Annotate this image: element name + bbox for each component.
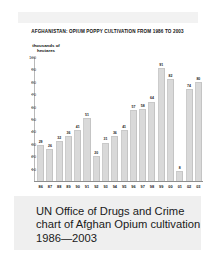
y-tick-label: 10 — [24, 166, 36, 171]
bar-slot[interactable]: 36 — [64, 57, 73, 181]
bar[interactable] — [186, 89, 193, 181]
x-tick-label: 97 — [138, 184, 147, 189]
bar-value-label: 31 — [101, 137, 110, 141]
y-tick-mark — [31, 144, 34, 145]
x-tick-label: 98 — [147, 184, 156, 189]
x-tick-label: 86 — [36, 184, 45, 189]
bar-value-label: 64 — [147, 96, 156, 100]
bar[interactable] — [74, 130, 81, 181]
x-tick-label: 87 — [45, 184, 54, 189]
y-tick-mark — [31, 169, 34, 170]
x-tick-label: 89 — [64, 184, 73, 189]
bar-value-label: 41 — [73, 125, 82, 129]
bar-value-label: 36 — [110, 131, 119, 135]
bar[interactable] — [167, 79, 174, 181]
y-tick-mark — [31, 119, 34, 120]
x-tick-label: 94 — [110, 184, 119, 189]
bar-value-label: 80 — [194, 77, 203, 81]
x-tick-label: 88 — [55, 184, 64, 189]
x-tick-label: 00 — [166, 184, 175, 189]
bar-slot[interactable]: 64 — [147, 57, 156, 181]
bar-slot[interactable]: 57 — [129, 57, 138, 181]
bar-value-label: 74 — [184, 84, 193, 88]
bar[interactable] — [102, 143, 109, 181]
x-tick-label: 02 — [184, 184, 193, 189]
bar-slot[interactable]: 31 — [101, 57, 110, 181]
y-axis-caption-line2: hectares — [16, 48, 76, 53]
y-tick-label: 90 — [24, 67, 36, 72]
x-tick-label: 92 — [92, 184, 101, 189]
bar[interactable] — [176, 171, 183, 181]
bar-slot[interactable]: 74 — [184, 57, 193, 181]
chart-title: AFGHANISTAN: OPIUM POPPY CULTIVATION FRO… — [0, 29, 215, 35]
y-tick-label: 50 — [24, 117, 36, 122]
bar-value-label: 57 — [129, 105, 138, 109]
bar-slot[interactable]: 8 — [175, 57, 184, 181]
y-tick-label: 20 — [24, 154, 36, 159]
chart-page: AFGHANISTAN: OPIUM POPPY CULTIVATION FRO… — [0, 0, 215, 262]
caption-line-1: UN Office of Drugs and Crime — [36, 205, 208, 218]
y-tick-mark — [31, 57, 34, 58]
bar[interactable] — [130, 110, 137, 181]
bar-value-label: 41 — [120, 125, 129, 129]
y-tick-mark — [31, 131, 34, 132]
bar[interactable] — [111, 136, 118, 181]
bar[interactable] — [56, 141, 63, 181]
bar-value-label: 36 — [64, 131, 73, 135]
bar-slot[interactable]: 20 — [92, 57, 101, 181]
bar-value-label: 51 — [82, 113, 91, 117]
bar-slot[interactable]: 82 — [166, 57, 175, 181]
x-tick-label: 03 — [194, 184, 203, 189]
bar-slot[interactable]: 36 — [110, 57, 119, 181]
bar-series: 29263236415120313641575864918287480 — [36, 57, 203, 181]
x-tick-label: 91 — [82, 184, 91, 189]
bar[interactable] — [83, 118, 90, 181]
bar-slot[interactable]: 41 — [73, 57, 82, 181]
top-decorative-band — [18, 12, 198, 23]
y-tick-label: 60 — [24, 104, 36, 109]
x-axis-line — [34, 181, 203, 182]
bar[interactable] — [121, 130, 128, 181]
y-tick-label: 80 — [24, 80, 36, 85]
x-tick-label: 99 — [157, 184, 166, 189]
caption-line-3: 1986—2003 — [36, 232, 208, 245]
bar-value-label: 20 — [92, 151, 101, 155]
y-tick-mark — [31, 156, 34, 157]
y-axis-caption: thousands of hectares — [16, 43, 76, 54]
bar[interactable] — [37, 145, 44, 181]
bar-slot[interactable]: 51 — [82, 57, 91, 181]
bar[interactable] — [158, 68, 165, 181]
bar-slot[interactable]: 29 — [36, 57, 45, 181]
bar-value-label: 26 — [45, 144, 54, 148]
y-tick-mark — [31, 94, 34, 95]
bar-slot[interactable]: 91 — [157, 57, 166, 181]
caption-block: UN Office of Drugs and Crime chart of Af… — [14, 196, 201, 250]
y-tick-label: 40 — [24, 129, 36, 134]
bar-value-label: 29 — [36, 140, 45, 144]
bar[interactable] — [65, 136, 72, 181]
bar-slot[interactable]: 41 — [120, 57, 129, 181]
bar-slot[interactable]: 26 — [45, 57, 54, 181]
bar[interactable] — [139, 109, 146, 181]
y-tick-label: 30 — [24, 142, 36, 147]
bar-value-label: 58 — [138, 104, 147, 108]
x-tick-label: 95 — [120, 184, 129, 189]
y-tick-label: 70 — [24, 92, 36, 97]
x-tick-label: 93 — [101, 184, 110, 189]
x-tick-label: 90 — [73, 184, 82, 189]
bar-slot[interactable]: 80 — [194, 57, 203, 181]
bar-slot[interactable]: 58 — [138, 57, 147, 181]
y-tick-mark — [31, 69, 34, 70]
bar-value-label: 8 — [175, 166, 184, 170]
bar-slot[interactable]: 32 — [55, 57, 64, 181]
bar-value-label: 82 — [166, 74, 175, 78]
caption-line-2: chart of Afghan Opium cultivation — [36, 218, 208, 231]
bar[interactable] — [195, 82, 202, 181]
x-tick-label: 96 — [129, 184, 138, 189]
bar[interactable] — [93, 156, 100, 181]
bar-value-label: 32 — [55, 136, 64, 140]
y-tick-mark — [31, 82, 34, 83]
bar[interactable] — [148, 102, 155, 181]
bar[interactable] — [46, 149, 53, 181]
y-tick-mark — [31, 107, 34, 108]
